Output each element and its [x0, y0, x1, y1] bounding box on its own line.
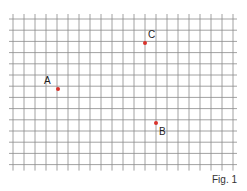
- point-b-label: B: [159, 127, 166, 137]
- grid-diagram: [0, 0, 247, 191]
- point-a-label: A: [44, 76, 51, 86]
- point-c-label: C: [148, 30, 155, 40]
- point-c-marker: [143, 41, 147, 45]
- point-b-marker: [154, 121, 158, 125]
- point-a-marker: [56, 87, 60, 91]
- figure-caption: Fig. 1: [212, 174, 237, 185]
